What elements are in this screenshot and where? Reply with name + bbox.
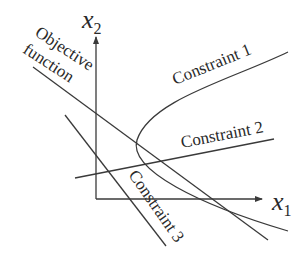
diagram-canvas: x2 x1 Objective function Constraint 1 Co… <box>0 0 306 267</box>
x1-axis-label: x1 <box>271 187 292 219</box>
constraint-2-label: Constraint 2 <box>179 117 265 152</box>
x2-axis-label: x2 <box>81 5 102 37</box>
constraint-2-line <box>75 139 274 178</box>
constraint-1-label: Constraint 1 <box>169 40 254 89</box>
